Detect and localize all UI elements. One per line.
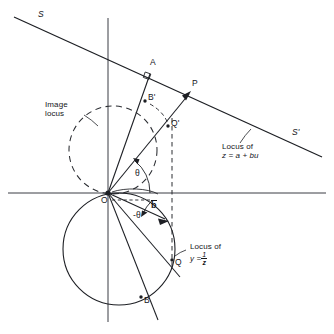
- label-point-p: P: [192, 79, 198, 88]
- straight-line-s: [14, 17, 322, 157]
- label-point-q: Q: [175, 258, 182, 267]
- label-origin-o: O: [101, 196, 108, 205]
- label-line-s: S: [38, 10, 44, 19]
- label-angle-theta-negative: -θ: [133, 211, 141, 220]
- ray-o-to-a: [108, 74, 150, 193]
- dashed-arc-bprime-to-qprime: [150, 104, 168, 124]
- vector-b-text: b: [151, 201, 157, 211]
- ray-o-to-p: [108, 94, 189, 193]
- figure-canvas: S S' A B' P Q' Q B O θ -θ b Image locus …: [0, 0, 334, 334]
- locus-y-fraction: 1z: [201, 251, 207, 266]
- angle-arc-neg-arrowhead: [141, 211, 148, 218]
- label-point-q-prime: Q': [171, 119, 179, 128]
- annotation-image-locus: Image locus: [45, 101, 68, 118]
- point-dot-b: [139, 295, 142, 298]
- ray-o-to-q: [108, 193, 180, 277]
- diagram-vector-graphics: [0, 0, 334, 334]
- image-locus-line2: locus: [45, 109, 64, 118]
- point-dot-qprime: [166, 124, 169, 127]
- label-point-b: B: [144, 296, 150, 305]
- label-point-b-prime: B': [148, 93, 156, 102]
- point-dot-q: [170, 258, 173, 261]
- locus-z-line2: z = a + bu: [222, 151, 259, 160]
- leader-locus-y: [175, 250, 186, 256]
- arrowhead-at-p: [182, 91, 191, 101]
- label-vector-b: b: [151, 201, 157, 211]
- inverse-locus-circle: [63, 193, 175, 305]
- leader-locus-z: [240, 129, 251, 143]
- point-dot-bprime: [143, 99, 146, 102]
- fraction-numerator: 1: [201, 251, 207, 258]
- annotation-locus-y: Locus of y =1z: [190, 243, 221, 267]
- leader-image-locus: [84, 115, 98, 126]
- label-point-a: A: [150, 58, 156, 67]
- locus-y-line2: y =1z: [190, 254, 207, 263]
- label-line-s-prime: S': [292, 128, 300, 137]
- fraction-denominator: z: [201, 258, 207, 266]
- locus-y-lead: y =: [190, 254, 201, 263]
- label-angle-theta-positive: θ: [135, 169, 140, 178]
- locus-y-line1: Locus of: [190, 242, 221, 251]
- annotation-locus-z: Locus of z = a + bu: [222, 143, 259, 160]
